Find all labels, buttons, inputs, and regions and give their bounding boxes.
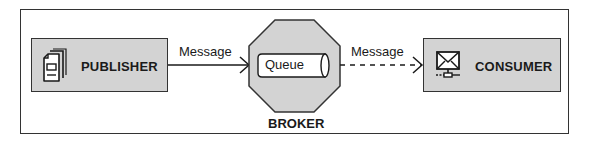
edge-broker-to-consumer <box>340 57 422 73</box>
edge-label-publish: Message <box>179 44 232 59</box>
queue-label: Queue <box>265 57 304 72</box>
edge-publisher-to-broker <box>168 57 249 73</box>
edge-label-consume: Message <box>351 44 404 59</box>
broker-label: BROKER <box>268 116 324 131</box>
